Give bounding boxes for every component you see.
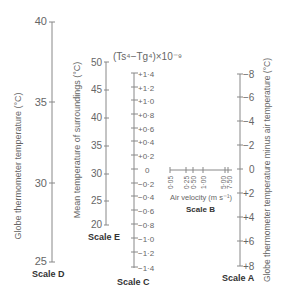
- scale-a-tick: 0: [249, 164, 255, 175]
- scale-b-tick: 1·00: [200, 176, 207, 189]
- scale-c-tick: +0·2: [138, 152, 155, 161]
- scale-b-label: Scale B: [186, 205, 215, 214]
- scale-c-tick: +0·6: [138, 125, 155, 134]
- scale-c-tick: 0: [145, 166, 150, 175]
- nomogram: Globe thermometer temperature (°C) 40 35…: [0, 0, 288, 303]
- scale-b-title: Air velocity (m s⁻¹): [170, 193, 232, 202]
- scale-a-tick: −4: [243, 116, 255, 127]
- scale-b-tick: 7·50: [226, 176, 233, 189]
- scale-c-label: Scale C: [117, 277, 150, 287]
- scale-d-tick: 30: [35, 177, 47, 189]
- scale-a-tick: +8: [243, 261, 255, 272]
- scale-a-tick: +2: [243, 188, 255, 199]
- scale-a-label: Scale A: [222, 273, 255, 283]
- scale-c-tick: +1·2: [138, 84, 155, 93]
- scale-d-tick: 35: [35, 96, 47, 108]
- scale-e-tick: 20: [91, 219, 103, 230]
- scale-c-tick: −0·4: [138, 193, 155, 202]
- scale-c-tick: −0·2: [138, 180, 155, 189]
- scale-d-title: Globe thermometer temperature (°C): [13, 92, 23, 239]
- scale-e-label: Scale E: [88, 232, 120, 242]
- scale-e-tick: 50: [91, 57, 103, 68]
- scale-e-tick: 30: [91, 168, 103, 179]
- scale-e: Mean temperature of surroundings (°C) 50…: [72, 57, 120, 242]
- scale-e-tick: 25: [91, 195, 103, 206]
- scale-b-tick: 0·50: [190, 176, 197, 189]
- scale-a-tick: −6: [243, 92, 255, 103]
- scale-d-label: Scale D: [32, 269, 65, 279]
- scale-c-tick: +0·8: [138, 111, 155, 120]
- scale-c: (Ts⁴−Tg⁴)×10⁻⁹ +1·4 +1·2 +1·0 +0·8 +0·6 …: [113, 51, 182, 287]
- scale-e-title: Mean temperature of surroundings (°C): [72, 62, 82, 219]
- scale-c-tick: −1·2: [138, 249, 155, 258]
- scale-e-tick: 45: [91, 84, 103, 95]
- scale-b-tick: 0·25: [183, 176, 190, 189]
- scale-a-tick: −2: [243, 140, 255, 151]
- scale-a-tick: −8: [243, 69, 255, 80]
- scale-c-tick: −0·6: [138, 207, 155, 216]
- scale-d-tick: 40: [35, 15, 47, 27]
- scale-e-tick: 40: [91, 112, 103, 123]
- scale-b: 0·05 0·25 0·50 1·00 5·00 7·50 Air veloci…: [167, 167, 233, 214]
- scale-e-tick: 35: [91, 140, 103, 151]
- scale-d-tick: 25: [35, 255, 47, 267]
- scale-a-tick: +4: [243, 212, 255, 223]
- scale-c-tick: −0·8: [138, 221, 155, 230]
- scale-d: Globe thermometer temperature (°C) 40 35…: [13, 15, 65, 279]
- scale-c-tick: −1·4: [138, 264, 155, 273]
- scale-b-tick: 0·05: [167, 176, 174, 189]
- scale-a-tick: +6: [243, 236, 255, 247]
- scale-c-tick: +1·4: [138, 70, 155, 79]
- scale-c-title: (Ts⁴−Tg⁴)×10⁻⁹: [113, 51, 182, 62]
- scale-c-tick: −1·0: [138, 235, 155, 244]
- scale-a-title: Globe thermometer temperature minus air …: [262, 58, 272, 282]
- scale-c-tick: +1·0: [138, 97, 155, 106]
- scale-c-tick: +0·4: [138, 138, 155, 147]
